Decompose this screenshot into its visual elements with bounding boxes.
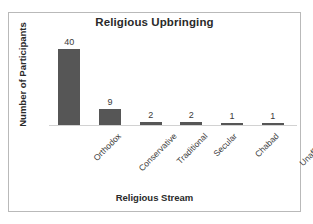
bar-value-label: 1 — [229, 111, 234, 122]
x-axis-line — [49, 125, 297, 126]
bar-group[interactable]: 9 — [90, 35, 130, 126]
x-tick-label: Traditional — [174, 131, 209, 166]
plot-area: 4092211 — [49, 35, 293, 126]
x-tick-label: Orthodox — [92, 131, 124, 163]
bar[interactable] — [99, 109, 121, 126]
bar-value-label: 2 — [148, 110, 153, 121]
bar-group[interactable]: 2 — [131, 35, 171, 126]
chart-frame: Religious Upbringing Number of Participa… — [8, 12, 301, 212]
x-tick-label: Unaffiliated — [297, 131, 313, 168]
x-tick-label: Conservative — [137, 131, 179, 173]
bar-group[interactable]: 1 — [212, 35, 252, 126]
bar-group[interactable]: 40 — [49, 35, 89, 126]
bar-value-label: 9 — [107, 97, 112, 108]
bar-group[interactable]: 1 — [253, 35, 293, 126]
bar-value-label: 2 — [189, 110, 194, 121]
y-axis-title: Number of Participants — [17, 10, 28, 140]
bar-value-label: 40 — [64, 37, 74, 48]
bar-group[interactable]: 2 — [171, 35, 211, 126]
bar[interactable] — [58, 49, 80, 126]
chart-title: Religious Upbringing — [9, 16, 300, 28]
x-tick-label: Secular — [212, 131, 239, 158]
x-tick-label: Chabad — [253, 131, 281, 159]
x-axis-tick-labels: OrthodoxConservativeTraditionalSecularCh… — [49, 127, 293, 189]
bar-value-label: 1 — [270, 111, 275, 122]
x-axis-title: Religious Stream — [9, 192, 300, 203]
